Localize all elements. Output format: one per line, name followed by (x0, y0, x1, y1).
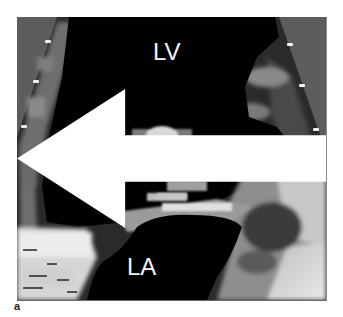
echo-figure: LV LA a (0, 0, 343, 317)
echocardiogram-image: LV LA (17, 17, 327, 301)
arrow-left-icon (17, 17, 326, 300)
panel-label: a (14, 300, 20, 312)
